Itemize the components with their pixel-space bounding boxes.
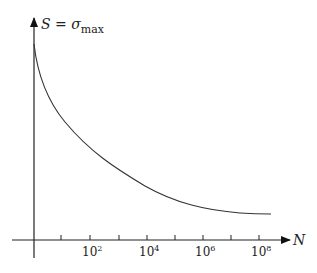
- x-tick-label-1e6: 106: [195, 244, 215, 259]
- x-tick-labels: 102 104 106 108: [82, 244, 271, 259]
- x-tick-label-1e4: 104: [139, 244, 159, 259]
- y-axis-label: S = σmax: [41, 16, 105, 36]
- x-axis-label: N: [292, 232, 306, 248]
- x-ticks: [61, 235, 259, 240]
- sn-curve-chart: 102 104 106 108 N S = σmax: [0, 0, 317, 273]
- x-tick-label-1e8: 108: [251, 244, 271, 259]
- x-tick-label-1e2: 102: [82, 244, 102, 259]
- sn-curve: [34, 44, 271, 214]
